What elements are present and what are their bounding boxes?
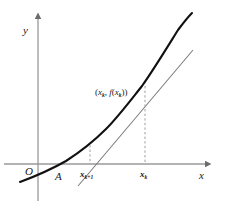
figure-canvas	[0, 0, 226, 211]
tangent-point-label: (xk, f(xk))	[95, 88, 128, 98]
origin-label: O	[25, 166, 33, 177]
tangent-line	[78, 50, 193, 186]
tangent-point-paren-close: ))	[122, 87, 128, 97]
x-current-tick-label: xk	[140, 170, 147, 180]
x-next-tick-label: xk+1	[80, 170, 93, 180]
y-axis-label: y	[23, 25, 28, 36]
x-current-subscript: k	[145, 174, 148, 180]
newton-method-figure: y x O A xk+1 xk (xk, f(xk))	[0, 0, 226, 211]
x-next-subscript: k+1	[85, 174, 94, 180]
x-axis-label: x	[199, 170, 204, 181]
root-point-label-A: A	[55, 171, 62, 182]
